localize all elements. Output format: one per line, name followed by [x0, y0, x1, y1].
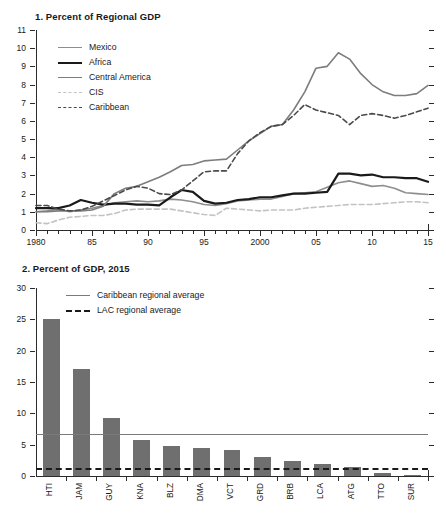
bar-label-dma: DMA: [197, 483, 205, 501]
panel-1-x-tick-minor: [81, 231, 82, 234]
legend-label-caribbean: Caribbean: [89, 103, 129, 112]
bar-label-sur: SUR: [408, 483, 416, 500]
panel-1-y-tick-label: 7: [0, 99, 26, 108]
panel-1-y-tick-right: [429, 121, 434, 122]
bar-label-vct: VCT: [227, 483, 235, 499]
bar-label-kna: KNA: [137, 483, 145, 500]
panel-1-x-tick-minor: [137, 231, 138, 234]
panel-1-y-tick-label: 11: [0, 26, 26, 35]
panel-1-y-tick-right: [429, 30, 434, 31]
panel-2-x-tick: [247, 477, 248, 481]
panel-1-y-tick-right: [429, 194, 434, 195]
panel-1-y-tick-right: [429, 230, 434, 231]
legend-item-lac-average: LAC regional average: [66, 303, 204, 318]
panel-1-x-tick-minor: [417, 231, 418, 234]
bar-label-lca: LCA: [317, 483, 325, 499]
panel-1-x-tick-minor: [226, 231, 227, 234]
panel-1-y-tick: [30, 212, 35, 213]
panel-1-y-tick: [30, 30, 35, 31]
panel-2-y-tick-right: [429, 413, 434, 414]
legend-label-lac-average: LAC regional average: [97, 306, 181, 315]
panel-1-y-tick-label: 0: [0, 226, 26, 235]
bar-tto[interactable]: [374, 473, 391, 476]
panel-1-y-tick: [30, 194, 35, 195]
panel-1-x-tick-minor: [170, 231, 171, 234]
legend-line-icon-caribbean: [58, 107, 82, 108]
panel-1-title: 1. Percent of Regional GDP: [35, 11, 161, 22]
bar-jam[interactable]: [73, 369, 90, 476]
bar-label-blz: BLZ: [167, 483, 175, 498]
legend-line-icon-mexico: [58, 47, 82, 48]
panel-1-x-tick-minor: [126, 231, 127, 234]
panel-1-y-tick-label: 9: [0, 62, 26, 71]
bar-grd[interactable]: [254, 457, 271, 476]
panel-1-y-tick: [30, 157, 35, 158]
panel-1-x-tick-minor: [361, 231, 362, 234]
panel-1-y-tick-right: [429, 103, 434, 104]
panel-2-y-tick-label: 10: [0, 409, 26, 418]
panel-2-y-tick-right: [429, 288, 434, 289]
bar-blz[interactable]: [163, 446, 180, 476]
panel-1-x-tick-minor: [350, 231, 351, 234]
panel-1-x-tick-minor: [215, 231, 216, 234]
panel-1-x-tick-label: 10: [356, 238, 388, 247]
panel-2-x-tick: [277, 477, 278, 481]
panel-1-x-tick-minor: [114, 231, 115, 234]
bar-label-grd: GRD: [257, 483, 265, 501]
panel-1-y-tick: [30, 175, 35, 176]
bar-hti[interactable]: [43, 319, 60, 476]
panel-1-y-tick: [30, 85, 35, 86]
panel-1-x-tick-minor: [294, 231, 295, 234]
panel-2-x-tick: [338, 477, 339, 481]
panel-1-x-tick-minor: [193, 231, 194, 234]
panel-2-y-axis: [36, 288, 37, 476]
panel-1-y-tick: [30, 103, 35, 104]
panel-2-y-tick: [30, 319, 35, 320]
panel-2-y-tick-right: [429, 351, 434, 352]
panel-2-y-tick-right: [429, 445, 434, 446]
panel-1-y-tick-right: [429, 175, 434, 176]
figure-root: 1. Percent of Regional GDP 0123456789101…: [0, 0, 446, 514]
bar-vct[interactable]: [224, 450, 241, 476]
panel-2-y-tick: [30, 351, 35, 352]
legend-line-icon-caribbean-average: [66, 295, 90, 296]
panel-1-x-tick-minor: [47, 231, 48, 234]
panel-1-x-tick-major: [428, 231, 429, 236]
panel-1-line-chart: 1. Percent of Regional GDP 0123456789101…: [0, 0, 446, 258]
legend-item-africa: Africa: [58, 55, 151, 70]
panel-2-y-tick: [30, 288, 35, 289]
panel-2-y-tick: [30, 413, 35, 414]
panel-1-y-tick-label: 1: [0, 208, 26, 217]
panel-2-x-tick: [96, 477, 97, 481]
panel-2-x-axis: [36, 476, 429, 477]
panel-2-x-tick: [428, 477, 429, 481]
panel-2-y-tick: [30, 476, 35, 477]
panel-1-y-tick-right: [429, 48, 434, 49]
panel-1-y-tick-label: 10: [0, 44, 26, 53]
legend-label-africa: Africa: [89, 58, 111, 67]
panel-1-series-caribbean: [36, 105, 428, 211]
panel-1-legend: Mexico Africa Central America CIS Caribb…: [58, 40, 151, 115]
panel-1-x-tick-minor: [182, 231, 183, 234]
panel-2-y-tick: [30, 445, 35, 446]
bar-kna[interactable]: [133, 440, 150, 476]
panel-1-y-tick-label: 5: [0, 135, 26, 144]
panel-2-y-tick-label: 25: [0, 315, 26, 324]
panel-1-x-tick-minor: [159, 231, 160, 234]
panel-2-y-tick-label: 5: [0, 441, 26, 450]
bar-sur[interactable]: [404, 475, 421, 476]
panel-1-x-tick-minor: [383, 231, 384, 234]
bar-dma[interactable]: [193, 448, 210, 476]
legend-label-caribbean-average: Caribbean regional average: [97, 291, 204, 300]
legend-item-caribbean: Caribbean: [58, 100, 151, 115]
panel-2-y-tick-label: 30: [0, 284, 26, 293]
panel-2-x-tick: [126, 477, 127, 481]
panel-2-x-tick: [398, 477, 399, 481]
panel-1-x-tick-minor: [238, 231, 239, 234]
panel-1-x-tick-minor: [58, 231, 59, 234]
panel-1-y-tick: [30, 121, 35, 122]
panel-1-y-tick-label: 4: [0, 153, 26, 162]
panel-1-x-tick-label: 95: [188, 238, 220, 247]
reference-line-lac-regional-average: [36, 468, 428, 470]
panel-2-x-tick: [307, 477, 308, 481]
